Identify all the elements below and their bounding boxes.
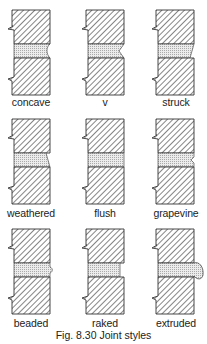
joint-panel-flush: [82, 117, 142, 217]
joint-panel-struck: [152, 8, 207, 108]
joint-label-grapevine: grapevine: [141, 207, 207, 219]
joint-panel-weathered: [8, 117, 68, 217]
joint-panel-beaded: [8, 227, 68, 327]
joint-label-struck: struck: [141, 96, 207, 108]
joint-panel-v: [82, 8, 142, 108]
joint-label-concave: concave: [0, 96, 66, 108]
joint-label-v: v: [70, 96, 140, 108]
joint-panel-raked: [82, 227, 142, 327]
joint-label-raked: raked: [70, 317, 140, 329]
joint-panel-concave: [8, 8, 68, 108]
v-joint-drawing: [82, 8, 142, 100]
joint-label-weathered: weathered: [0, 207, 66, 219]
joint-panel-grapevine: [152, 117, 207, 217]
joint-label-extruded: extruded: [141, 317, 207, 329]
weathered-joint-drawing: [8, 117, 68, 209]
figure-caption: Fig. 8.30 Joint styles: [0, 329, 207, 341]
struck-joint-drawing: [152, 8, 207, 100]
joint-panel-extruded: [152, 227, 207, 327]
flush-joint-drawing: [82, 117, 142, 209]
beaded-joint-drawing: [8, 227, 68, 319]
joint-label-beaded: beaded: [0, 317, 66, 329]
joint-label-flush: flush: [70, 207, 140, 219]
raked-joint-drawing: [82, 227, 142, 319]
extruded-joint-drawing: [152, 227, 207, 319]
grapevine-joint-drawing: [152, 117, 207, 209]
concave-joint-drawing: [8, 8, 68, 100]
